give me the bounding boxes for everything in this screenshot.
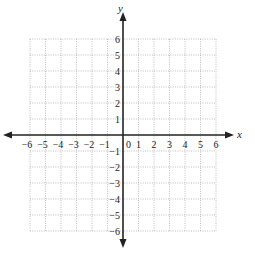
x-tick-label: −6 [22, 139, 33, 150]
y-tick-label: 2 [115, 98, 120, 109]
x-tick-label: −4 [53, 139, 64, 150]
y-tick-label: −2 [109, 162, 120, 173]
x-tick-label: 2 [152, 139, 157, 150]
x-axis-label: x [236, 128, 242, 140]
x-axis-left-arrow-icon [3, 132, 12, 139]
y-tick-label: −4 [109, 194, 120, 205]
x-axis-right-arrow-icon [225, 132, 234, 139]
y-tick-label: 1 [115, 114, 120, 125]
x-tick-label: −2 [84, 139, 95, 150]
y-axis-down-arrow-icon [120, 239, 127, 248]
y-tick-label: −5 [109, 210, 120, 221]
x-tick-label: −1 [99, 139, 110, 150]
x-tick-label: 5 [198, 139, 203, 150]
x-tick-label: 1 [136, 139, 141, 150]
x-tick-label: 3 [167, 139, 172, 150]
y-tick-label: 4 [115, 66, 120, 77]
y-tick-label: 6 [115, 34, 120, 45]
y-tick-label: −1 [109, 146, 120, 157]
y-tick-label: 5 [115, 50, 120, 61]
x-tick-labels: −6−5−4−3−2−1123456 [22, 139, 219, 150]
x-tick-label: −3 [68, 139, 79, 150]
y-tick-label: 3 [115, 82, 120, 93]
y-tick-label: −3 [109, 178, 120, 189]
labels: x y 0 [117, 2, 242, 150]
coordinate-plane: x y 0 −6−5−4−3−2−1123456 654321−1−2−3−4−… [0, 0, 255, 255]
y-axis-label: y [117, 2, 123, 14]
y-tick-label: −6 [109, 226, 120, 237]
origin-label: 0 [126, 139, 131, 150]
x-tick-label: 6 [214, 139, 219, 150]
x-tick-label: −5 [37, 139, 48, 150]
x-tick-label: 4 [183, 139, 188, 150]
